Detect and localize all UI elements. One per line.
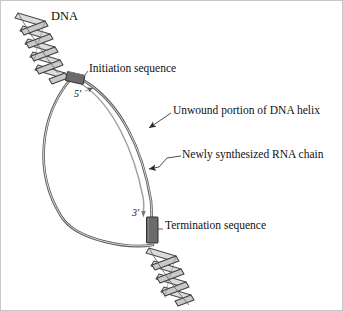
- leader-line-initiation: [85, 71, 88, 75]
- dna-double-helix-lower: [146, 248, 194, 306]
- termination-sequence-box: [147, 217, 159, 243]
- dna-label: DNA: [51, 10, 78, 23]
- three-prime-label: 3': [132, 208, 139, 218]
- initiation-sequence-label: Initiation sequence: [89, 63, 176, 75]
- rna-chain-label: Newly synthesized RNA chain: [182, 149, 324, 161]
- leader-line-unwound: [149, 113, 171, 128]
- transcription-diagram: DNA Initiation sequence Unwound portion …: [0, 0, 343, 311]
- five-prime-label: 5': [74, 89, 81, 99]
- newly-synthesized-rna-strand: [83, 85, 146, 218]
- dna-double-helix-upper: [15, 13, 68, 84]
- leader-line-rna: [149, 156, 181, 169]
- transcription-bubble: [44, 79, 153, 246]
- termination-sequence-label: Termination sequence: [165, 220, 266, 232]
- five-prime-tick: [85, 88, 93, 91]
- unwound-portion-label: Unwound portion of DNA helix: [173, 105, 320, 117]
